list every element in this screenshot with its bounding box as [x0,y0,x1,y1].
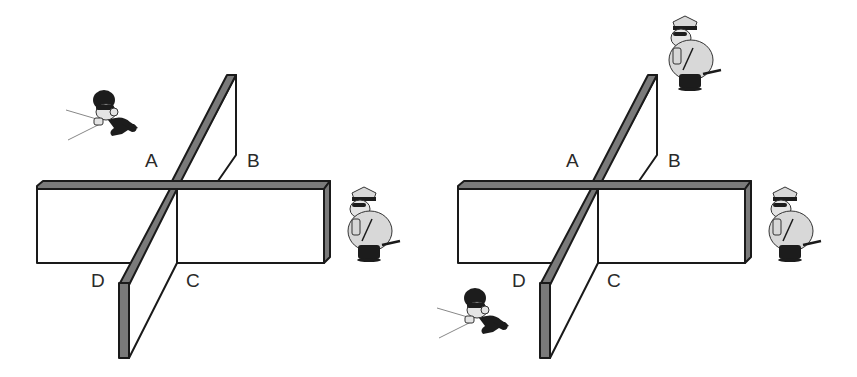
label-a: A [145,150,158,171]
label-c: C [607,270,621,291]
panel-right: A B C D [437,16,821,358]
thief-figure [66,90,138,140]
label-d: D [512,270,526,291]
police-figure [348,187,400,262]
label-d: D [91,270,105,291]
label-b: B [247,150,260,171]
thief-figure [437,288,509,338]
police-figure-top [669,16,721,91]
cross-walls [37,75,330,358]
figure-canvas: A B C D A B C D [0,0,857,377]
police-figure-right [769,187,821,262]
label-a: A [566,150,579,171]
label-c: C [186,270,200,291]
panel-left: A B C D [37,75,400,358]
cross-walls [458,75,751,358]
label-b: B [668,150,681,171]
